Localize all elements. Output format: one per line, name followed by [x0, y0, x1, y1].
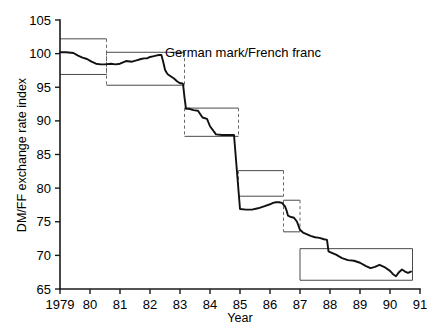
y-tick-label: 100	[29, 46, 51, 61]
x-tick-label: 89	[353, 297, 367, 312]
y-tick-label: 105	[29, 13, 51, 28]
y-tick-label: 70	[37, 248, 51, 263]
x-tick-label: 83	[173, 297, 187, 312]
y-tick-label: 90	[37, 113, 51, 128]
x-tick-label: 90	[383, 297, 397, 312]
x-tick-label: 82	[143, 297, 157, 312]
x-tick-layer: 1979808182838485868788899091	[46, 289, 428, 312]
chart-figure: 65707580859095100105 1979808182838485868…	[0, 0, 444, 334]
x-tick-label: 1979	[46, 297, 75, 312]
x-axis-title: Year	[227, 311, 252, 325]
y-tick-label: 65	[37, 282, 51, 297]
y-axis-title: DM/FF exchange rate index	[15, 77, 29, 232]
x-tick-label: 87	[293, 297, 307, 312]
y-tick-label: 80	[37, 181, 51, 196]
x-tick-label: 88	[323, 297, 337, 312]
x-tick-label: 86	[263, 297, 277, 312]
x-tick-label: 91	[413, 297, 427, 312]
y-tick-label: 85	[37, 147, 51, 162]
y-tick-label: 95	[37, 80, 51, 95]
series-line	[60, 52, 411, 276]
exchange-rate-chart: 65707580859095100105 1979808182838485868…	[0, 0, 444, 334]
series-line-layer	[60, 52, 411, 276]
y-tick-layer: 65707580859095100105	[29, 13, 60, 297]
x-tick-label: 85	[233, 297, 247, 312]
x-tick-label: 80	[83, 297, 97, 312]
y-tick-label: 75	[37, 214, 51, 229]
x-tick-label: 84	[203, 297, 217, 312]
x-tick-label: 81	[113, 297, 127, 312]
series-annotation-label: German mark/French franc	[165, 45, 322, 60]
